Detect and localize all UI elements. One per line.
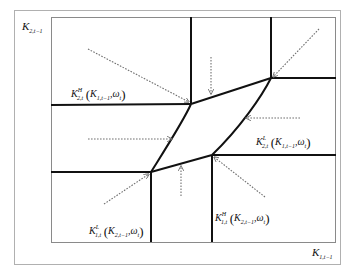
x-axis-label: K1,t−1 (312, 247, 333, 260)
x-axis-label-sub: 1,t−1 (319, 254, 332, 260)
boundary-lines (51, 17, 336, 242)
dynamics-arrows (88, 29, 319, 204)
arrow-lower-right-diagonal (214, 157, 265, 197)
arrow-lower-left-diagonal (104, 174, 149, 204)
plot-area (52, 18, 336, 243)
y-axis-label-sub: 2,t−1 (29, 28, 42, 34)
y-axis-label: K2,t−1 (22, 21, 43, 34)
arrow-upper-right-diagonal (273, 29, 319, 77)
boundary-upper-left-horizontal (51, 104, 191, 105)
curve-label-K1t-H: KH1,t (K2,t−1,ωt) (215, 212, 270, 225)
curve-label-K2t-H: KH2,t (K1,t−1,ωt) (71, 88, 126, 101)
curve-label-K2t-L: KL2,t (K1,t−1,ωt) (256, 136, 311, 149)
curve-label-K1t-L: KL1,t (K2,t−1,ωt) (89, 225, 144, 238)
